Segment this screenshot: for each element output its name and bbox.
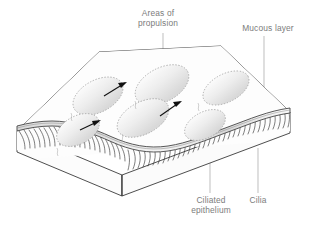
label-mucous-layer: Mucous layer [228,23,308,33]
label-cilia: Cilia [232,195,284,205]
diagram-canvas: Areas of propulsion Mucous layer Ciliate… [0,0,311,232]
label-areas-of-propulsion: Areas of propulsion [118,8,198,28]
